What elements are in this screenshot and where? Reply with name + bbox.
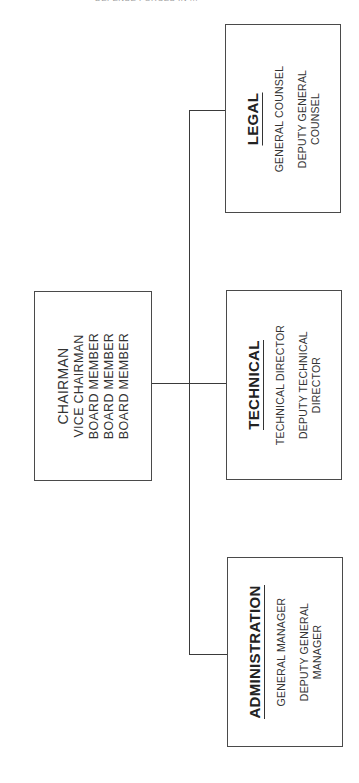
department-title-technical: TECHNICAL xyxy=(245,340,264,429)
role-technical-director: TECHNICAL DIRECTOR xyxy=(274,325,287,445)
board-chairman: CHAIRMAN xyxy=(55,347,72,424)
cropped-page-header: DEFENSE FORCES IN ... xyxy=(95,0,325,4)
department-title-administration: ADMINISTRATION xyxy=(246,585,265,718)
board-box: CHAIRMAN VICE CHAIRMAN BOARD MEMBER BOAR… xyxy=(34,291,152,481)
board-vice-chairman: VICE CHAIRMAN xyxy=(72,334,87,437)
board-member: BOARD MEMBER xyxy=(87,333,102,439)
connector-board-to-technical xyxy=(152,383,227,384)
connector-to-legal xyxy=(189,110,226,111)
board-member: BOARD MEMBER xyxy=(102,333,117,439)
department-box-administration: ADMINISTRATION GENERAL MANAGER DEPUTY GE… xyxy=(227,557,343,747)
role-general-manager: GENERAL MANAGER xyxy=(275,598,288,707)
role-deputy-technical-director: DEPUTY TECHNICAL DIRECTOR xyxy=(297,330,323,440)
role-general-counsel: GENERAL COUNSEL xyxy=(273,65,286,171)
role-deputy-general-manager: DEPUTY GENERAL MANAGER xyxy=(298,602,324,702)
role-deputy-general-counsel: DEPUTY GENERAL COUNSEL xyxy=(296,69,322,169)
department-box-technical: TECHNICAL TECHNICAL DIRECTOR DEPUTY TECH… xyxy=(226,290,342,480)
department-box-legal: LEGAL GENERAL COUNSEL DEPUTY GENERAL COU… xyxy=(225,24,341,213)
connector-to-administration xyxy=(189,654,227,655)
board-member: BOARD MEMBER xyxy=(117,333,132,439)
department-title-legal: LEGAL xyxy=(244,92,263,144)
